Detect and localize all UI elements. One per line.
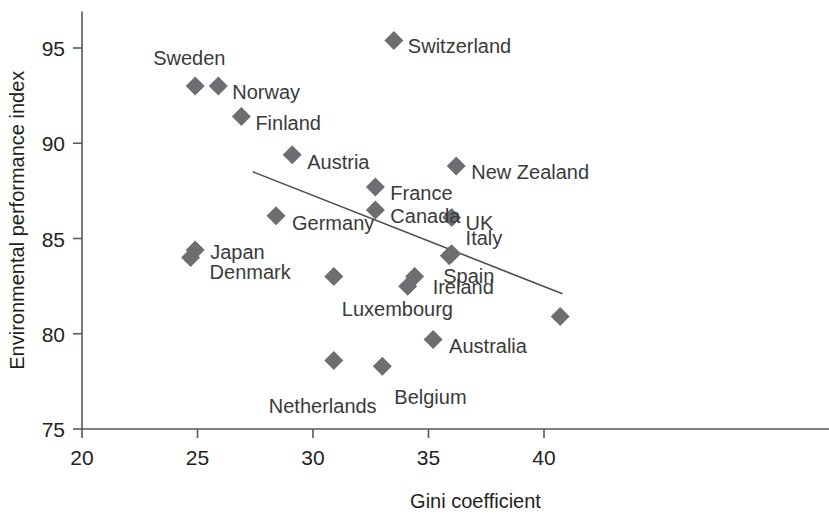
scatter-marker (186, 77, 205, 96)
scatter-point-label: Austria (307, 151, 370, 173)
x-axis-title: Gini coefficient (410, 490, 541, 512)
x-tick-label: 35 (417, 446, 440, 469)
scatter-point-label: Australia (449, 335, 528, 357)
scatter-point-label: Netherlands (269, 395, 377, 417)
scatter-point-label: Sweden (153, 47, 225, 69)
scatter-point-label: Luxembourg (342, 298, 453, 320)
scatter-point-label: Switzerland (408, 35, 511, 57)
y-tick-label: 85 (42, 228, 65, 251)
chart-canvas: 75808590952025303540 SwedenNorwayFinland… (0, 0, 829, 514)
scatter-marker (424, 330, 443, 349)
scatter-plot-figure: 75808590952025303540 SwedenNorwayFinland… (0, 0, 829, 514)
scatter-marker (209, 77, 228, 96)
scatter-point-label: Belgium (394, 386, 466, 408)
y-tick-label: 95 (42, 37, 65, 60)
x-tick-label: 20 (70, 446, 93, 469)
scatter-point-label: Finland (255, 112, 321, 134)
scatter-point-label: Germany (292, 212, 374, 234)
x-tick-label: 25 (186, 446, 209, 469)
x-tick-label: 40 (532, 446, 555, 469)
y-tick-label: 80 (42, 323, 65, 346)
scatter-marker (373, 357, 392, 376)
scatter-marker (232, 107, 251, 126)
scatter-marker (366, 178, 385, 197)
scatter-point-label: Denmark (210, 261, 292, 283)
scatter-marker (551, 307, 570, 326)
scatter-marker (447, 157, 466, 176)
scatter-marker (283, 145, 302, 164)
scatter-point-label: Canada (390, 205, 461, 227)
scatter-point-label: Italy (466, 227, 503, 249)
y-axis-title: Environmental performance index (6, 71, 28, 370)
scatter-point-label: New Zealand (471, 161, 589, 183)
scatter-marker (267, 206, 286, 225)
x-tick-label: 30 (301, 446, 324, 469)
scatter-marker (324, 267, 343, 286)
scatter-point-label: France (390, 182, 452, 204)
scatter-point-label: Ireland (433, 276, 494, 298)
scatter-point-label: Norway (232, 81, 300, 103)
scatter-marker (324, 351, 343, 370)
y-tick-label: 90 (42, 132, 65, 155)
scatter-marker (384, 31, 403, 50)
y-tick-label: 75 (42, 418, 65, 441)
